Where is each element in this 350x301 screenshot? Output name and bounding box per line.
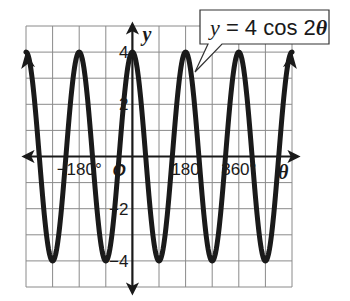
cosine-graph: −180°O180360°42−2−4 θ y y = 4 cos 2θ xyxy=(0,0,350,301)
equation-theta: θ xyxy=(316,15,328,40)
x-tick-label: 180 xyxy=(171,160,199,179)
equation-callout: y = 4 cos 2θ xyxy=(195,10,329,72)
y-tick-label: −4 xyxy=(109,252,128,271)
y-axis-label: y xyxy=(140,23,151,46)
equation-label: y = 4 cos 2θ xyxy=(208,15,328,40)
equation-middle: = 4 cos 2 xyxy=(220,15,316,40)
equation-y: y xyxy=(208,15,220,40)
x-axis-label: θ xyxy=(278,161,289,183)
